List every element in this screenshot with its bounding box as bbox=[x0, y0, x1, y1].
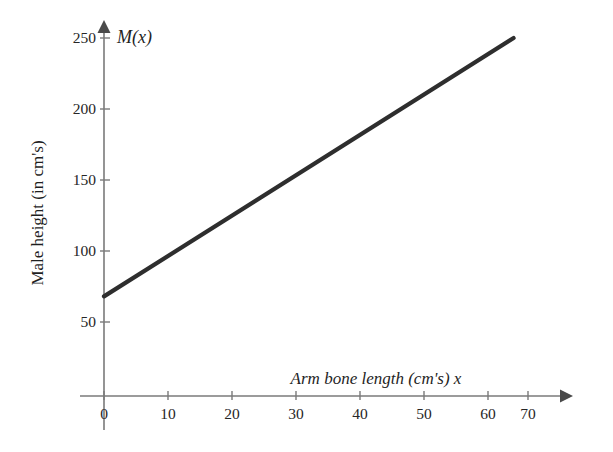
data-series-line bbox=[104, 38, 514, 296]
x-axis-title: Arm bone length (cm's) x bbox=[290, 369, 462, 388]
x-tick-label: 70 bbox=[520, 405, 536, 422]
x-axis-arrow-icon bbox=[560, 390, 573, 403]
y-tick-label: 150 bbox=[73, 171, 97, 188]
chart-figure: 0 10 20 30 40 50 60 70 50 100 150 200 25… bbox=[0, 0, 613, 452]
x-tick-label: 10 bbox=[160, 405, 176, 422]
line-chart-svg: 0 10 20 30 40 50 60 70 50 100 150 200 25… bbox=[0, 0, 613, 452]
y-tick-label: 250 bbox=[73, 29, 97, 46]
y-tick-label: 50 bbox=[81, 313, 97, 330]
y-axis-arrow-icon bbox=[98, 20, 111, 33]
x-tick-label: 0 bbox=[100, 405, 108, 422]
x-tick-label: 50 bbox=[416, 405, 432, 422]
y-tick-label: 100 bbox=[73, 242, 97, 259]
x-tick-label: 30 bbox=[288, 405, 304, 422]
y-axis-title: Male height (in cm's) bbox=[28, 140, 47, 285]
x-tick-label: 20 bbox=[224, 405, 240, 422]
x-tick-label: 40 bbox=[352, 405, 368, 422]
y-tick-label: 200 bbox=[73, 100, 97, 117]
function-label: M(x) bbox=[116, 27, 152, 48]
x-tick-label: 60 bbox=[480, 405, 496, 422]
